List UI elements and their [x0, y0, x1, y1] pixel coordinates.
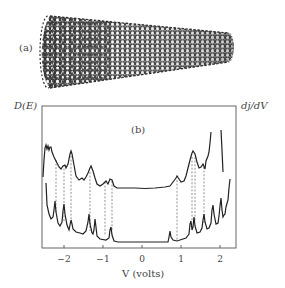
panel-b-label: (b) — [131, 124, 145, 135]
left-y-axis-label: D(E) — [14, 100, 37, 111]
left-y-axis-label-text: D(E) — [14, 100, 37, 111]
dos-curve-tail — [221, 130, 223, 172]
x-tick-label: 2 — [217, 254, 223, 264]
dashed-guides — [56, 156, 204, 240]
x-tick-label: 0 — [139, 254, 145, 264]
dos-curve — [43, 132, 211, 189]
x-tick-label: 1 — [178, 254, 184, 264]
x-axis-label: V (volts) — [122, 268, 164, 279]
right-y-axis-label-text: dj/dV — [241, 100, 268, 111]
x-tick-label: −2 — [57, 254, 70, 264]
right-y-axis-label: dj/dV — [241, 100, 268, 111]
nanotube-model — [40, 10, 240, 95]
x-tick-label: −1 — [96, 254, 109, 264]
figure-canvas — [0, 0, 285, 288]
